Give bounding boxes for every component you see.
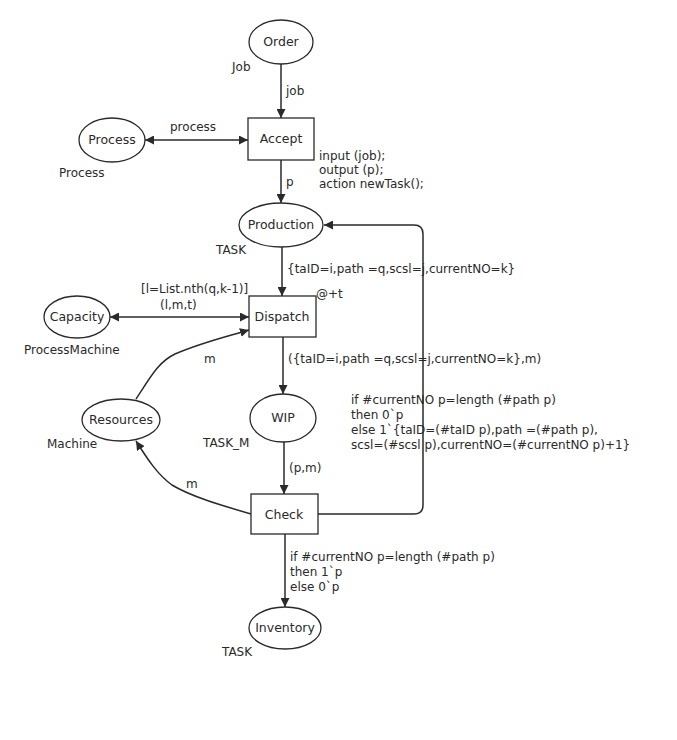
place-process[interactable]: Process [79,118,145,162]
svg-text:then 0`p: then 0`p [351,408,403,422]
arc-label-production-dispatch: {taID=i,path =q,scsl=j,currentNO=k} [287,262,515,276]
svg-text:if #currentNO p=length (#path: if #currentNO p=length (#path p) [290,550,495,564]
svg-text:else 0`p: else 0`p [290,580,339,594]
arc-label-process: process [170,120,216,134]
colorset-task: TASK [215,243,247,257]
arc-label-resources-dispatch: m [204,352,216,366]
svg-text:if #currentNO p=length (#path: if #currentNO p=length (#path p) [351,393,556,407]
svg-text:action newTask();: action newTask(); [319,177,424,191]
svg-text:output (p);: output (p); [319,163,383,177]
colorset-task-inventory: TASK [221,645,253,659]
transition-dispatch[interactable]: Dispatch [249,296,316,337]
svg-text:then 1`p: then 1`p [290,565,342,579]
place-name: Process [88,132,135,147]
svg-text:scsl=(#scsl p),currentNO=(#cur: scsl=(#scsl p),currentNO=(#currentNO p)+… [351,438,630,452]
colorset-machine: Machine [47,437,97,451]
arc-label-check-inventory: if #currentNO p=length (#path p) then 1`… [290,550,495,594]
accept-code-segment: input (job); output (p); action newTask(… [319,149,424,191]
colorset-task-m: TASK_M [202,436,249,450]
petri-net-diagram: job process p {taID=i,path =q,scsl=j,cur… [0,0,677,740]
arc-label-p: p [286,175,294,189]
place-capacity[interactable]: Capacity [44,296,110,338]
place-name: Resources [89,412,153,427]
place-resources[interactable]: Resources [82,399,160,441]
place-name: Capacity [50,309,105,324]
dispatch-guard: [l=List.nth(q,k-1)] [141,282,248,296]
colorset-process: Process [59,166,105,180]
place-production[interactable]: Production [239,203,323,247]
arc-label-check-resources: m [186,477,198,491]
arc-label-dispatch-wip: ({taID=i,path =q,scsl=j,currentNO=k},m) [288,352,541,366]
svg-text:else 1`{taID=(#taID p),path =(: else 1`{taID=(#taID p),path =(#path p), [351,423,598,437]
arc-label-job: job [285,84,304,98]
arc-resources-dispatch[interactable] [136,330,249,399]
transition-check[interactable]: Check [251,494,318,534]
place-inventory[interactable]: Inventory [249,607,321,649]
transition-name: Check [265,507,304,522]
transition-accept[interactable]: Accept [248,118,314,160]
place-order[interactable]: Order [249,20,313,64]
place-name: Production [248,217,315,232]
arc-label-wip-check: (p,m) [289,461,321,475]
transition-name: Accept [260,131,303,146]
arc-label-capacity-dispatch: (l,m,t) [160,298,197,312]
place-wip[interactable]: WIP [250,394,316,442]
place-name: WIP [271,410,295,425]
arc-label-check-production: if #currentNO p=length (#path p) then 0`… [351,393,630,452]
svg-text:input (job);: input (job); [319,149,385,163]
transition-name: Dispatch [255,309,310,324]
colorset-processmachine: ProcessMachine [24,343,120,357]
colorset-job: Job [231,60,251,74]
place-name: Order [263,34,299,49]
place-name: Inventory [255,620,315,635]
dispatch-time-delay: @+t [316,287,343,301]
